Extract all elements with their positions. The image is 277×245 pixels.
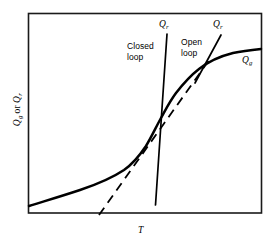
qg-subscript: g — [249, 59, 252, 66]
y-axis-label: Qg or Qr — [12, 82, 24, 138]
qg-symbol: Q — [242, 55, 249, 65]
y-axis-qr-subscript: r — [16, 93, 23, 96]
y-axis-qg-subscript: g — [16, 116, 23, 119]
y-axis-connector: or — [12, 103, 22, 116]
annotation-qr-open-loop: Qr — [213, 19, 223, 31]
annotation-closed-loop: Closed loop — [127, 41, 154, 62]
annotation-qr-closed-loop: Qr — [159, 19, 169, 31]
qr-open-subscript: r — [220, 23, 223, 30]
qr-open-symbol: Q — [213, 19, 220, 29]
y-axis-qr-symbol: Q — [12, 96, 22, 103]
y-axis-qg-symbol: Q — [12, 119, 22, 126]
qr-closed-symbol: Q — [159, 19, 166, 29]
plot-canvas — [0, 0, 277, 245]
qr-closed-subscript: r — [166, 23, 169, 30]
annotation-qg-curve: Qg — [242, 55, 252, 67]
annotation-open-loop: Open loop — [181, 37, 202, 58]
reactor-stability-figure: Closed loop Open loop Qr Qr Qg T Qg or Q… — [0, 0, 277, 245]
x-axis-label: T — [138, 225, 143, 236]
